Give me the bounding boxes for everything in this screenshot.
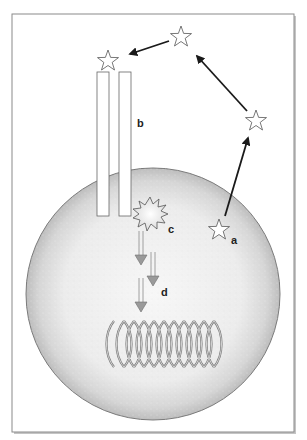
label-d: d (161, 286, 168, 298)
label-c: c (168, 223, 174, 235)
label-b: b (137, 117, 144, 129)
label-a: a (231, 234, 238, 246)
cell-signaling-diagram: b c a d (0, 0, 307, 440)
